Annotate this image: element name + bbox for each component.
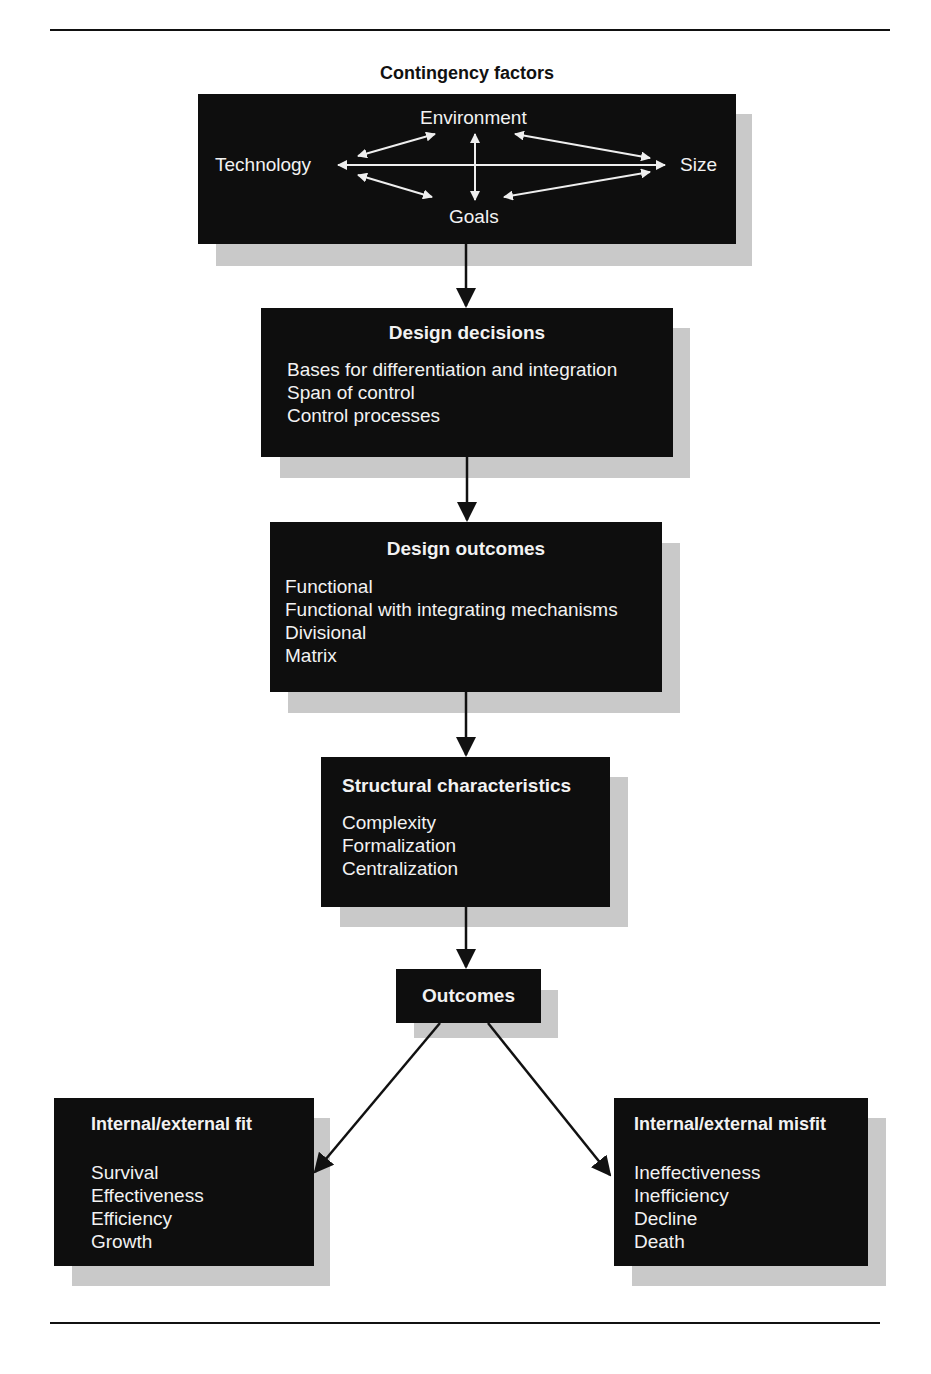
arrow-technology-goals (358, 175, 432, 197)
arrow-goals-size (504, 172, 650, 197)
arrow-technology-environment (358, 134, 435, 156)
arrow-environment-size (515, 134, 650, 158)
connector-arrows (0, 0, 931, 1374)
arrow-outcomes-to-misfit (488, 1023, 610, 1175)
arrow-outcomes-to-fit (315, 1023, 440, 1172)
